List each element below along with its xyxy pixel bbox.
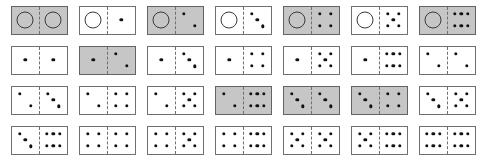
domino-4-6[interactable]	[215, 126, 272, 155]
domino-half-left-0	[80, 7, 108, 34]
pip-icon	[386, 12, 389, 15]
pip-icon	[301, 105, 304, 108]
domino-half-left-2	[12, 87, 40, 114]
pip-icon	[125, 104, 128, 107]
pip-icon	[329, 12, 332, 15]
pip-icon	[432, 144, 435, 147]
domino-2-5[interactable]	[147, 86, 204, 115]
pip-icon	[193, 65, 196, 68]
domino-row-2	[0, 40, 502, 80]
pip-icon	[385, 64, 388, 67]
pip-icon	[290, 144, 293, 147]
pip-icon	[460, 24, 463, 27]
domino-2-6[interactable]	[215, 86, 272, 115]
pip-icon	[385, 144, 388, 147]
pip-icon	[318, 92, 321, 95]
pip-icon	[358, 92, 361, 95]
domino-4-4[interactable]	[79, 126, 136, 155]
pip-icon	[250, 52, 253, 55]
domino-half-right-5	[312, 47, 340, 74]
pip-icon	[437, 105, 440, 108]
domino-0-1[interactable]	[79, 6, 136, 35]
pip-icon	[318, 24, 321, 27]
pip-icon	[256, 92, 259, 95]
domino-row-4	[0, 120, 502, 160]
pip-icon	[392, 132, 395, 135]
pip-icon	[398, 52, 401, 55]
pip-icon	[222, 132, 225, 135]
domino-2-3[interactable]	[11, 86, 68, 115]
pip-icon	[154, 144, 157, 147]
domino-half-right-3	[244, 7, 272, 34]
pip-icon	[188, 98, 191, 101]
pip-icon	[318, 64, 321, 67]
domino-half-right-2	[448, 47, 476, 74]
domino-half-left-2	[216, 87, 244, 114]
domino-0-3[interactable]	[215, 6, 272, 35]
domino-half-left-1	[284, 47, 312, 74]
domino-1-4[interactable]	[215, 46, 272, 75]
domino-3-6[interactable]	[11, 126, 68, 155]
domino-4-5[interactable]	[147, 126, 204, 155]
domino-1-1[interactable]	[11, 46, 68, 75]
pip-icon	[329, 24, 332, 27]
domino-half-right-6	[40, 127, 68, 154]
domino-6-6[interactable]	[419, 126, 476, 155]
domino-half-left-3	[352, 87, 380, 114]
domino-half-left-0	[420, 7, 448, 34]
domino-half-left-2	[420, 47, 448, 74]
domino-0-0[interactable]	[11, 6, 68, 35]
domino-1-6[interactable]	[351, 46, 408, 75]
zero-circle-icon	[289, 12, 306, 29]
domino-1-3[interactable]	[147, 46, 204, 75]
domino-2-2[interactable]	[419, 46, 476, 75]
domino-5-6[interactable]	[351, 126, 408, 155]
pip-icon	[453, 144, 456, 147]
pip-icon	[125, 132, 128, 135]
domino-0-4[interactable]	[283, 6, 340, 35]
domino-3-3[interactable]	[283, 86, 340, 115]
pip-icon	[182, 92, 185, 95]
domino-1-5[interactable]	[283, 46, 340, 75]
pip-icon	[453, 12, 456, 15]
pip-icon	[301, 144, 304, 147]
domino-half-left-2	[80, 87, 108, 114]
pip-icon	[329, 132, 332, 135]
pip-icon	[261, 64, 264, 67]
domino-half-left-1	[148, 47, 176, 74]
domino-3-5[interactable]	[419, 86, 476, 115]
domino-1-2[interactable]	[79, 46, 136, 75]
domino-half-right-5	[312, 127, 340, 154]
domino-0-2[interactable]	[147, 6, 204, 35]
domino-3-4[interactable]	[351, 86, 408, 115]
pip-icon	[97, 144, 100, 147]
pip-icon	[92, 58, 95, 61]
pip-icon	[125, 64, 128, 67]
domino-half-right-4	[244, 47, 272, 74]
domino-2-4[interactable]	[79, 86, 136, 115]
domino-half-left-5	[284, 127, 312, 154]
pip-icon	[45, 144, 48, 147]
pip-icon	[18, 132, 21, 135]
pip-icon	[318, 144, 321, 147]
pip-icon	[454, 92, 457, 95]
pip-icon	[460, 12, 463, 15]
domino-5-5[interactable]	[283, 126, 340, 155]
pip-icon	[45, 132, 48, 135]
pip-icon	[52, 98, 55, 101]
pip-icon	[256, 144, 259, 147]
pip-icon	[453, 132, 456, 135]
domino-0-5[interactable]	[351, 6, 408, 35]
pip-icon	[233, 132, 236, 135]
pip-icon	[193, 132, 196, 135]
pip-icon	[29, 104, 32, 107]
pip-icon	[125, 92, 128, 95]
pip-icon	[188, 58, 191, 61]
domino-half-left-4	[80, 127, 108, 154]
domino-0-6[interactable]	[419, 6, 476, 35]
pip-icon	[52, 58, 55, 61]
domino-half-right-4	[108, 87, 136, 114]
pip-icon	[261, 52, 264, 55]
pip-icon	[125, 144, 128, 147]
pip-icon	[182, 12, 185, 15]
